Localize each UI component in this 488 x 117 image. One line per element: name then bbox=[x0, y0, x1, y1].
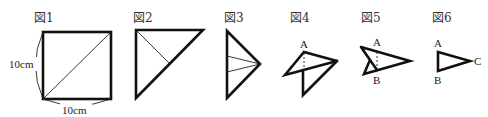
figure-3: 図3 bbox=[224, 11, 260, 98]
point-c-label: C bbox=[474, 55, 481, 67]
point-a-label: A bbox=[300, 38, 308, 50]
point-b-label: B bbox=[373, 74, 380, 86]
diagonal-line bbox=[43, 32, 111, 99]
figure-6: 図6 A B C bbox=[432, 11, 481, 86]
figure-5: 図5 A B bbox=[361, 11, 410, 86]
point-a-label: A bbox=[373, 36, 381, 48]
figure-1: 図1 10cm 10cm bbox=[8, 11, 111, 116]
figure-2-label: 図2 bbox=[133, 11, 153, 25]
figure-6-label: 図6 bbox=[432, 11, 452, 25]
origami-folding-diagram: 図1 10cm 10cm 図2 図3 図4 A 図5 A B bbox=[0, 0, 488, 117]
inner-fold-edge bbox=[370, 60, 377, 70]
figure-3-label: 図3 bbox=[224, 11, 244, 25]
triangle-abc-outline bbox=[438, 52, 470, 71]
figure-4: 図4 A bbox=[285, 11, 337, 95]
arrow-shape-outline bbox=[361, 47, 410, 74]
left-dimension-label: 10cm bbox=[9, 58, 34, 70]
narrow-triangle-outline bbox=[227, 31, 260, 98]
point-a-label: A bbox=[434, 37, 442, 49]
figure-4-label: 図4 bbox=[290, 11, 310, 25]
crease-line bbox=[136, 30, 170, 64]
point-b-label: B bbox=[434, 74, 441, 86]
figure-1-label: 図1 bbox=[34, 11, 54, 25]
upper-flap-outline bbox=[285, 52, 337, 75]
bottom-dimension-label: 10cm bbox=[62, 104, 87, 116]
figure-5-label: 図5 bbox=[361, 11, 381, 25]
figure-2: 図2 bbox=[133, 11, 203, 98]
